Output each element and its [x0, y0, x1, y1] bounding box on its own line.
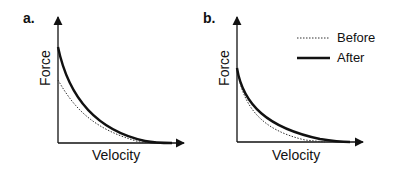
panel-b-y-label: Force — [216, 48, 232, 88]
panel-b-after-curve — [237, 68, 350, 142]
panel-a-axes — [58, 17, 184, 143]
panel-a-y-label: Force — [37, 48, 53, 88]
legend-before-label: Before — [337, 30, 375, 45]
legend-after-label: After — [337, 50, 364, 65]
panel-a-after-curve — [58, 47, 172, 143]
panel-b-before-curve — [237, 68, 325, 142]
panel-a-x-label: Velocity — [92, 147, 140, 163]
figure-canvas — [0, 0, 396, 172]
panel-b-x-label: Velocity — [272, 147, 320, 163]
